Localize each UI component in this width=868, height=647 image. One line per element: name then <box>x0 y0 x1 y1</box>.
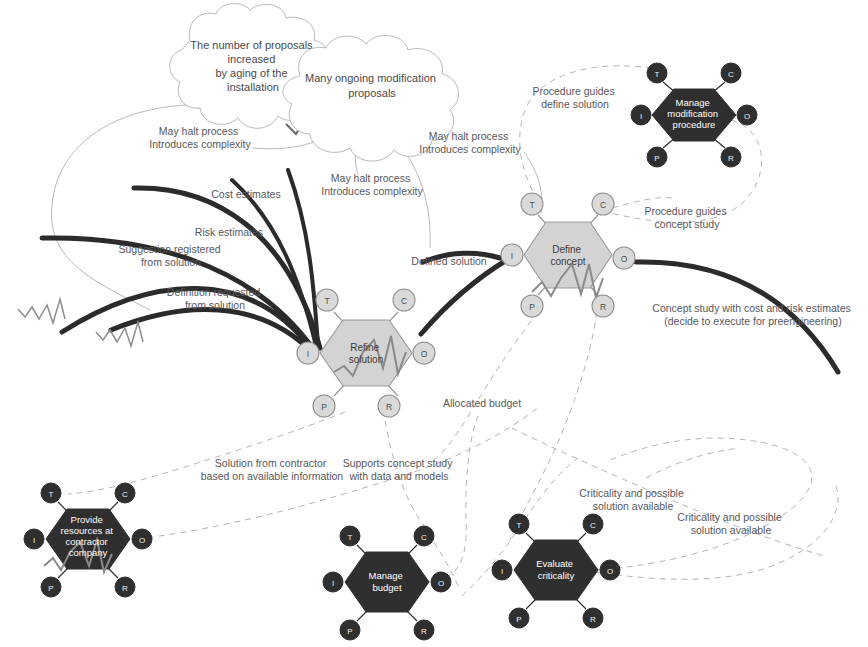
diagram-canvas: Manage modification procedure T C I O P … <box>0 0 868 647</box>
activity-manage-modification-procedure[interactable]: Manage modification procedure T C I O P … <box>631 63 757 167</box>
port-r-label: R <box>600 302 606 312</box>
arrow-extra-inflow-b <box>288 170 318 345</box>
port-t-label: T <box>655 70 660 79</box>
port-p-label: P <box>347 627 352 636</box>
activity-label-define-concept: Define concept <box>550 244 585 267</box>
activity-manage-budget[interactable]: Manage budget T C I O P R <box>323 526 451 640</box>
port-c-label: C <box>590 521 596 530</box>
port-o-label: O <box>421 349 428 359</box>
activity-label-manage-budget: Manage budget <box>369 570 406 593</box>
port-o-label: O <box>621 254 628 264</box>
arrow-defined-solution <box>421 258 510 334</box>
port-t-label: T <box>324 296 329 306</box>
flow-label-may-halt-left: May halt process Introduces complexity <box>149 125 251 150</box>
port-t-label: T <box>517 521 522 530</box>
port-c-label: C <box>600 200 606 210</box>
flow-label-may-halt-right: May halt process Introduces complexity <box>419 130 521 155</box>
port-t-label: T <box>49 490 54 499</box>
port-c-label: C <box>401 296 407 306</box>
activity-define-concept[interactable]: Define concept T C I O P R <box>501 193 635 317</box>
port-i-label: I <box>307 349 309 359</box>
connector-evaluate-criticality-up <box>646 448 740 478</box>
squiggle-left-upper <box>18 299 65 323</box>
port-i-label: I <box>640 112 642 121</box>
port-i-label: I <box>511 251 513 261</box>
flow-label-criticality-available-left: Criticality and possible solution availa… <box>579 487 686 512</box>
port-p-label: P <box>321 402 327 412</box>
port-p-label: P <box>529 302 535 312</box>
flow-label-supports-concept-study: Supports concept study with data and mod… <box>343 457 456 482</box>
hexagon-body-define-concept <box>524 222 612 288</box>
port-o-label: O <box>744 112 750 121</box>
port-p-label: P <box>48 584 53 593</box>
port-i-label: I <box>501 567 503 576</box>
flow-label-procedure-guides-concept-study: Procedure guides concept study <box>644 205 729 230</box>
port-r-label: R <box>386 402 392 412</box>
port-c-label: C <box>421 533 427 542</box>
port-t-label: T <box>529 200 534 210</box>
port-r-label: R <box>421 627 427 636</box>
activity-provide-resources-at-contractor-company[interactable]: Provide resources at contractor company … <box>24 483 152 597</box>
port-r-label: R <box>728 154 734 163</box>
port-p-label: P <box>516 615 521 624</box>
port-r-label: R <box>590 615 596 624</box>
port-o-label: O <box>139 536 145 545</box>
arrow-extra-inflow-a <box>232 180 316 346</box>
connector-define-concept-r-down <box>510 312 597 540</box>
flow-label-procedure-guides-define-solution: Procedure guides define solution <box>532 85 617 110</box>
flow-label-allocated-budget: Allocated budget <box>443 397 521 409</box>
port-c-label: C <box>122 490 128 499</box>
diagram-svg: Manage modification procedure T C I O P … <box>0 0 868 647</box>
port-i-label: I <box>332 579 334 588</box>
activity-refine-solution[interactable]: Refine solution T C I O P R <box>297 289 435 417</box>
flow-label-criticality-available-right: Criticality and possible solution availa… <box>677 511 784 536</box>
flow-label-solution-from-contractor: Solution from contractor based on availa… <box>201 457 344 482</box>
flow-label-cost-estimates: Cost estimates <box>211 188 280 200</box>
port-p-label: P <box>654 154 659 163</box>
flow-label-group: May halt process Introduces complexity M… <box>118 85 853 536</box>
port-i-label: I <box>33 536 35 545</box>
flow-label-may-halt-middle: May halt process Introduces complexity <box>321 172 423 197</box>
port-o-label: O <box>438 579 444 588</box>
port-o-label: O <box>607 567 613 576</box>
port-c-label: C <box>728 70 734 79</box>
activity-evaluate-criticality[interactable]: Evaluate criticality T C I O P R <box>492 514 620 628</box>
thick-arrow-group <box>42 170 838 372</box>
connector-define-concept-p-down <box>432 312 538 462</box>
flow-label-risk-estimates: Risk estimates <box>195 226 263 238</box>
activity-label-evaluate-criticality: Evaluate criticality <box>536 558 576 581</box>
port-t-label: T <box>348 533 353 542</box>
flow-label-concept-study-estimates: Concept study with cost and risk estimat… <box>652 302 853 327</box>
port-r-label: R <box>122 584 128 593</box>
flow-label-defined-solution: Defined solution <box>411 255 486 267</box>
activity-label-refine-solution: Refine solution <box>349 342 383 365</box>
